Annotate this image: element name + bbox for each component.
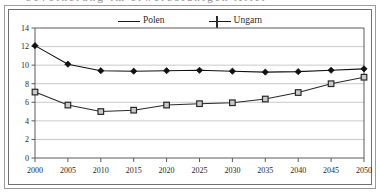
- plot-area: 02468101214 2000200520102015202020252030…: [9, 10, 371, 184]
- y-tick-label-14: 14: [21, 24, 29, 33]
- x-tick-label-2035: 2035: [257, 166, 273, 175]
- x-axis-tick-labels: 2000200520102015202020252030203520402045…: [27, 166, 372, 175]
- line-chart-svg: 02468101214 2000200520102015202020252030…: [9, 10, 373, 186]
- x-tick-label-2050: 2050: [356, 166, 372, 175]
- axis-lines: [35, 28, 364, 158]
- x-tick-label-2030: 2030: [224, 166, 240, 175]
- data-point-polen-2020[interactable]: [164, 68, 170, 74]
- data-point-polen-2000[interactable]: [32, 43, 38, 49]
- x-tick-label-2020: 2020: [159, 166, 175, 175]
- y-tick-label-10: 10: [21, 61, 29, 70]
- data-point-polen-2015[interactable]: [131, 68, 137, 74]
- y-axis-tick-labels: 02468101214: [21, 24, 29, 163]
- data-point-ungarn-2020[interactable]: [164, 102, 170, 108]
- data-point-polen-2040[interactable]: [295, 69, 301, 75]
- y-tick-label-12: 12: [21, 42, 29, 51]
- y-tick-label-4: 4: [25, 117, 29, 126]
- data-point-ungarn-2030[interactable]: [230, 100, 236, 106]
- data-point-ungarn-2050[interactable]: [361, 74, 367, 80]
- y-tick-label-0: 0: [25, 154, 29, 163]
- data-point-ungarn-2045[interactable]: [328, 81, 334, 87]
- y-tick-label-8: 8: [25, 80, 29, 89]
- data-point-ungarn-2010[interactable]: [98, 109, 104, 115]
- data-point-polen-2010[interactable]: [98, 68, 104, 74]
- data-point-polen-2005[interactable]: [65, 61, 71, 67]
- x-tick-label-2005: 2005: [60, 166, 76, 175]
- data-point-ungarn-2040[interactable]: [295, 90, 301, 96]
- data-point-polen-2025[interactable]: [196, 67, 202, 73]
- data-point-polen-2050[interactable]: [361, 66, 367, 72]
- data-point-ungarn-2005[interactable]: [65, 102, 71, 108]
- data-point-polen-2045[interactable]: [328, 67, 334, 73]
- x-tick-label-2010: 2010: [93, 166, 109, 175]
- figure-inner-border: Polen Ungarn 02468101214 200020052010: [8, 9, 372, 185]
- data-point-polen-2030[interactable]: [229, 68, 235, 74]
- x-tick-label-2025: 2025: [192, 166, 208, 175]
- data-point-ungarn-2015[interactable]: [131, 107, 137, 113]
- x-tick-label-2015: 2015: [126, 166, 142, 175]
- data-point-ungarn-2025[interactable]: [197, 101, 203, 107]
- x-tick-label-2045: 2045: [323, 166, 339, 175]
- y-tick-label-6: 6: [25, 98, 29, 107]
- x-tick-label-2000: 2000: [27, 166, 43, 175]
- y-tick-label-2: 2: [25, 135, 29, 144]
- data-point-polen-2035[interactable]: [262, 69, 268, 75]
- data-point-ungarn-2000[interactable]: [32, 89, 38, 95]
- data-point-ungarn-2035[interactable]: [263, 96, 269, 102]
- x-axis-ticks: [35, 158, 364, 162]
- cut-off-caption-text: bevölkerung im erwerbsfähigen Alter: [26, 0, 268, 3]
- gridlines: [35, 28, 364, 158]
- x-tick-label-2040: 2040: [290, 166, 306, 175]
- figure-outer-border: Polen Ungarn 02468101214 200020052010: [4, 5, 376, 189]
- data-series-markers: [32, 43, 367, 115]
